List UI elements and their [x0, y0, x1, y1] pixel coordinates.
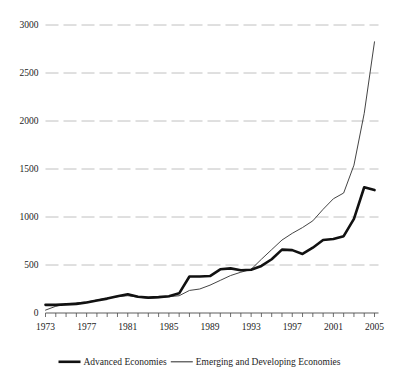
chart-canvas: 050010001500200025003000 197319771981198…: [0, 0, 396, 383]
y-tick-label-2500: 2500: [20, 68, 39, 78]
y-tick-label-1000: 1000: [20, 212, 39, 222]
x-axis-tick-labels: 197319771981198519891993199720012005: [36, 322, 384, 332]
y-tick-label-1500: 1500: [20, 164, 39, 174]
x-tick-label-2001: 2001: [324, 322, 343, 332]
data-series: [46, 42, 375, 310]
y-axis-tick-labels: 050010001500200025003000: [20, 20, 39, 318]
chart-legend: Advanced EconomiesEmerging and Developin…: [59, 357, 341, 367]
series-line-advanced-economies: [46, 187, 375, 305]
x-tick-label-2005: 2005: [365, 322, 384, 332]
gridlines: [46, 25, 379, 265]
x-tick-label-1985: 1985: [159, 322, 178, 332]
legend-label-series-line-advanced-economies: Advanced Economies: [84, 357, 167, 367]
y-tick-label-500: 500: [24, 260, 39, 270]
x-tick-label-1981: 1981: [118, 322, 137, 332]
x-tick-label-1997: 1997: [283, 322, 302, 332]
series-line-emerging-and-developing-economies: [46, 42, 375, 310]
x-tick-label-1977: 1977: [77, 322, 96, 332]
y-tick-label-3000: 3000: [20, 20, 39, 30]
x-tick-label-1993: 1993: [242, 322, 261, 332]
legend-label-series-line-emerging-and-developing-economies: Emerging and Developing Economies: [196, 357, 341, 367]
x-axis: [46, 313, 379, 317]
x-tick-label-1973: 1973: [36, 322, 55, 332]
y-tick-label-2000: 2000: [20, 116, 39, 126]
x-tick-label-1989: 1989: [201, 322, 220, 332]
line-chart: 050010001500200025003000 197319771981198…: [0, 0, 396, 383]
y-tick-label-0: 0: [34, 308, 39, 318]
